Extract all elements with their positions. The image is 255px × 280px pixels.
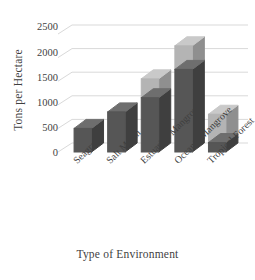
bar-chart: Tons per Hectare 2500 2000 1500 1000 500… [0, 0, 255, 280]
y-tick-1500: 1500 [37, 72, 58, 83]
y-tick-500: 500 [42, 122, 58, 133]
plot-area [60, 18, 248, 158]
y-tick-1000: 1000 [37, 97, 58, 108]
y-tick-2000: 2000 [37, 47, 58, 58]
y-tick-0: 0 [53, 147, 58, 158]
bar-series [60, 18, 248, 158]
y-axis-tick-labels: 2500 2000 1500 1000 500 0 [20, 18, 58, 158]
x-axis-title: Type of Environment [0, 248, 255, 260]
y-tick-2500: 2500 [37, 21, 58, 32]
